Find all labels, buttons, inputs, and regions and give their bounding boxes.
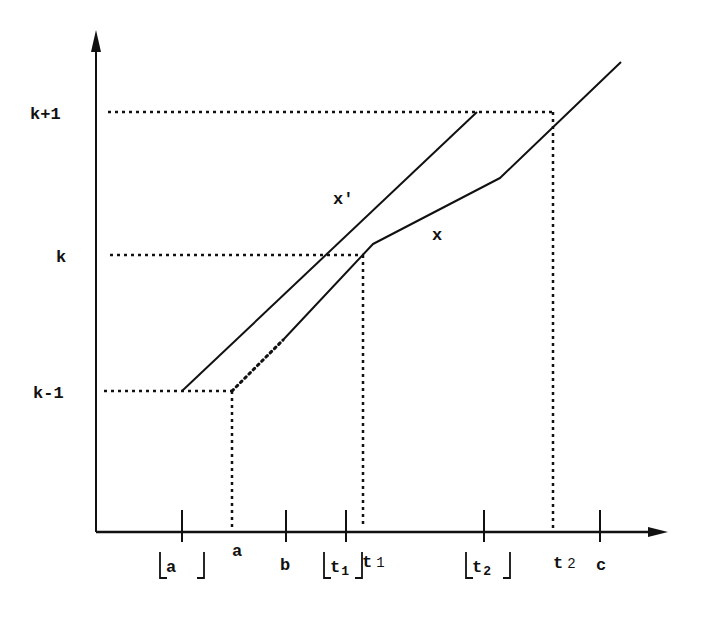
level-label-k: k bbox=[56, 248, 66, 267]
x-label-t1: t1 bbox=[362, 553, 385, 572]
labels: k+1kk-1x′xabt1t2cat1t2 bbox=[30, 105, 606, 579]
kinematic-diagram: k+1kk-1x′xabt1t2cat1t2 bbox=[0, 0, 704, 617]
svg-text:a: a bbox=[166, 558, 176, 577]
level-label-k_minus_1: k-1 bbox=[33, 384, 64, 403]
curve-x_prime bbox=[182, 112, 477, 391]
level-label-k_plus_1: k+1 bbox=[30, 105, 61, 124]
floor-label-floor_t1: t1 bbox=[324, 552, 362, 579]
svg-text:t1: t1 bbox=[330, 558, 349, 579]
dotted-guides bbox=[104, 112, 553, 528]
y-axis-arrow-icon bbox=[91, 30, 101, 52]
right-floor-bracket-icon bbox=[503, 552, 510, 578]
axes bbox=[91, 30, 668, 542]
curve-label-x: x bbox=[432, 226, 442, 245]
x-axis-arrow-icon bbox=[648, 527, 668, 537]
svg-text:t2: t2 bbox=[472, 558, 491, 579]
curve-x-dotted bbox=[232, 340, 283, 391]
x-label-c: c bbox=[596, 556, 606, 575]
x-label-b: b bbox=[280, 556, 290, 575]
floor-label-floor_t2: t2 bbox=[466, 552, 510, 579]
curves bbox=[182, 62, 621, 391]
x-label-a: a bbox=[232, 542, 242, 561]
floor-label-floor_a: a bbox=[160, 552, 204, 578]
right-floor-bracket-icon bbox=[355, 552, 362, 578]
x-label-t2: t2 bbox=[553, 554, 576, 573]
right-floor-bracket-icon bbox=[197, 552, 204, 578]
curve-label-x_prime: x′ bbox=[333, 190, 353, 209]
